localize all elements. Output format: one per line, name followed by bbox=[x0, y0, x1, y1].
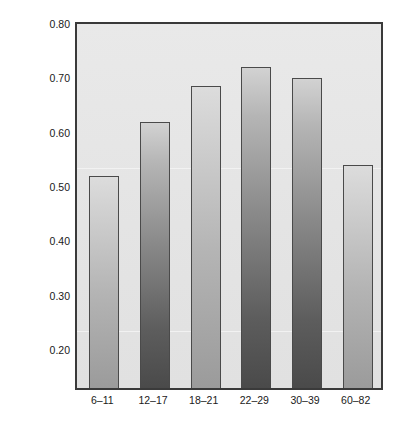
bar-fill bbox=[293, 79, 321, 388]
bar bbox=[140, 122, 170, 388]
bar bbox=[191, 86, 221, 388]
x-tick-label: 22–29 bbox=[240, 394, 269, 406]
x-axis-tick-labels: 6–1112–1718–2122–2930–3960–82 bbox=[75, 394, 383, 416]
y-tick-label: 0.60 bbox=[30, 127, 70, 139]
x-tick-label: 30–39 bbox=[290, 394, 319, 406]
plot-area bbox=[75, 22, 383, 390]
y-tick-label: 0.70 bbox=[30, 72, 70, 84]
bar-fill bbox=[90, 177, 118, 388]
x-tick-label: 6–11 bbox=[91, 394, 114, 406]
y-tick-label: 0.80 bbox=[30, 18, 70, 30]
bar-fill bbox=[344, 166, 372, 388]
bar bbox=[241, 67, 271, 388]
bars-layer bbox=[77, 24, 381, 388]
bar-fill bbox=[141, 123, 169, 388]
y-axis-title: Self-Esteem Test-Retest Correlation bbox=[0, 0, 30, 434]
bar bbox=[292, 78, 322, 388]
y-tick-label: 0.40 bbox=[30, 235, 70, 247]
x-tick-label: 12–17 bbox=[138, 394, 167, 406]
bar-chart-figure: Self-Esteem Test-Retest Correlation 0.80… bbox=[0, 0, 404, 434]
y-tick-label: 0.30 bbox=[30, 290, 70, 302]
y-axis-tick-labels: 0.800.700.600.500.400.300.20 bbox=[30, 22, 70, 390]
x-tick-label: 60–82 bbox=[341, 394, 370, 406]
bar bbox=[343, 165, 373, 388]
bar-fill bbox=[242, 68, 270, 388]
y-tick-label: 0.20 bbox=[30, 344, 70, 356]
y-tick-label: 0.50 bbox=[30, 181, 70, 193]
bar bbox=[89, 176, 119, 388]
bar-fill bbox=[192, 87, 220, 388]
x-tick-label: 18–21 bbox=[189, 394, 218, 406]
